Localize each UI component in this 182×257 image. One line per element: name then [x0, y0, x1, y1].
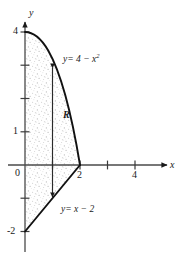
line-equation-label: y= x − 2 [61, 205, 94, 215]
y-tick-label-4: 4 [13, 26, 18, 36]
y-tick-label-1: 1 [13, 126, 18, 136]
x-tick-label-2: 2 [77, 170, 82, 180]
math-figure: y x 0 4 1 -2 2 4 R y= 4 − x2 y= x − 2 [0, 0, 182, 257]
x-axis-label: x [170, 160, 174, 170]
y-tick-label-minus-2: -2 [7, 226, 15, 236]
x-tick-label-4: 4 [132, 170, 137, 180]
line-eq-body: = x − 2 [65, 204, 94, 214]
y-axis-label: y [29, 8, 33, 18]
parabola-eq-body: = 4 − x [67, 54, 96, 64]
region-label: R [63, 110, 70, 120]
parabola-equation-label: y= 4 − x2 [63, 53, 99, 65]
graph-canvas [0, 0, 182, 257]
origin-label: 0 [15, 168, 20, 178]
parabola-eq-exponent: 2 [96, 52, 99, 59]
